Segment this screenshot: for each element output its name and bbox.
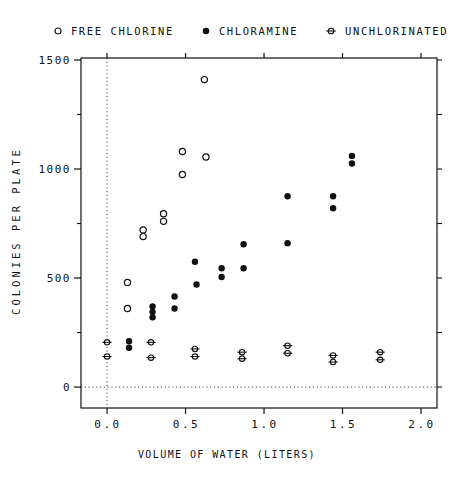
data-point-free-chlorine xyxy=(203,154,209,160)
data-point-chloramine xyxy=(240,265,246,271)
data-point-chloramine xyxy=(240,241,246,247)
data-point-chloramine xyxy=(149,314,155,320)
data-point-free-chlorine xyxy=(140,227,146,233)
x-axis-title: VOLUME OF WATER (LITERS) xyxy=(0,449,454,460)
y-axis-title: COLONIES PER PLATE xyxy=(10,131,22,331)
data-point-chloramine xyxy=(284,193,290,199)
x-tick-label: 1.5 xyxy=(330,418,357,431)
data-point-free-chlorine xyxy=(179,148,185,154)
data-point-chloramine xyxy=(330,205,336,211)
data-point-chloramine xyxy=(171,293,177,299)
data-point-chloramine xyxy=(149,309,155,315)
data-point-free-chlorine xyxy=(140,233,146,239)
scatter-plot-figure: FREE CHLORINE CHLORAMINE UNCHLORINATED 0… xyxy=(0,0,454,486)
data-point-chloramine xyxy=(192,258,198,264)
y-tick-label: 500 xyxy=(47,272,71,285)
x-tick-label: 0.0 xyxy=(94,418,121,431)
data-point-chloramine xyxy=(330,193,336,199)
data-point-free-chlorine xyxy=(124,305,130,311)
data-point-chloramine xyxy=(218,265,224,271)
data-point-free-chlorine xyxy=(160,218,166,224)
data-point-free-chlorine xyxy=(201,76,207,82)
page: { "figure": { "background": "#ffffff", "… xyxy=(0,0,454,486)
y-tick-label: 1500 xyxy=(39,54,72,67)
data-point-chloramine xyxy=(126,338,132,344)
plot-canvas: 0.00.51.01.52.0050010001500 xyxy=(0,0,454,486)
data-point-chloramine xyxy=(349,153,355,159)
data-point-free-chlorine xyxy=(179,171,185,177)
data-point-chloramine xyxy=(126,345,132,351)
data-point-free-chlorine xyxy=(124,279,130,285)
data-point-free-chlorine xyxy=(160,211,166,217)
data-point-chloramine xyxy=(193,281,199,287)
y-tick-label: 0 xyxy=(63,381,71,394)
data-point-chloramine xyxy=(284,240,290,246)
data-point-chloramine xyxy=(349,160,355,166)
data-point-chloramine xyxy=(149,303,155,309)
plot-frame xyxy=(81,58,437,408)
x-tick-label: 0.5 xyxy=(173,418,200,431)
y-tick-label: 1000 xyxy=(39,163,72,176)
x-tick-label: 2.0 xyxy=(408,418,435,431)
x-tick-label: 1.0 xyxy=(251,418,278,431)
data-point-chloramine xyxy=(171,305,177,311)
data-point-chloramine xyxy=(218,274,224,280)
